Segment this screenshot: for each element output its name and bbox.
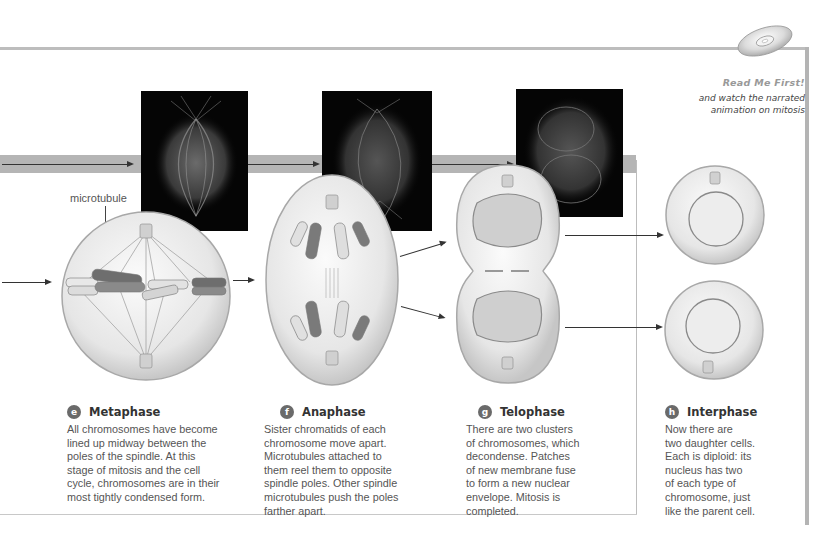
description-line: farther apart. (264, 505, 449, 519)
arrow-telophase-to-interphase-top (565, 235, 662, 236)
frame-right-line (636, 160, 637, 515)
subtitle-line: animation on mitosis (655, 104, 805, 116)
arrow-into-metaphase (2, 282, 50, 283)
description-line: chromosome move apart. (264, 437, 449, 451)
description-line: completed. (466, 505, 626, 519)
right-divider (805, 47, 809, 525)
top-divider (0, 47, 808, 50)
microtubule-label: microtubule (70, 192, 127, 204)
description-line: There are two clusters (466, 423, 626, 437)
read-me-first-link[interactable]: Read Me First! (723, 77, 805, 88)
description-line: Now there are (665, 423, 805, 437)
stage-description: Now there are two daughter cells. Each i… (665, 423, 805, 518)
description-line: All chromosomes have become (67, 423, 252, 437)
interphase-daughter-cell-bottom (663, 279, 765, 381)
description-line: cycle, chromosomes are in their (67, 477, 252, 491)
band-arrow-2 (240, 164, 318, 165)
description-line: most tightly condensed form. (67, 491, 252, 505)
interphase-daughter-cell-top (664, 164, 766, 266)
stage-letter-badge: e (67, 405, 81, 419)
description-line: of new membrane fuse (466, 464, 626, 478)
stage-anaphase: f Anaphase Sister chromatids of each chr… (264, 405, 449, 518)
stage-title: Telophase (500, 405, 565, 419)
description-line: poles of the spindle. At this (67, 450, 252, 464)
description-line: spindle poles. Other spindle (264, 477, 449, 491)
description-line: two daughter cells. (665, 437, 805, 451)
arrow-telophase-to-interphase-bottom (565, 327, 661, 328)
stage-title: Interphase (687, 405, 757, 419)
description-line: to form a new nuclear (466, 477, 626, 491)
description-line: chromosome, just (665, 491, 805, 505)
arrow-anaphase-to-telophase-bottom (401, 306, 444, 318)
description-line: Each is diploid: its (665, 450, 805, 464)
anaphase-cell-illustration (264, 173, 400, 387)
stage-interphase: h Interphase Now there are two daughter … (665, 405, 805, 518)
stage-description: Sister chromatids of each chromosome mov… (264, 423, 449, 518)
stage-letter-badge: f (280, 405, 294, 419)
description-line: of each type of (665, 477, 805, 491)
description-line: microtubules push the poles (264, 491, 449, 505)
stage-description: There are two clusters of chromosomes, w… (466, 423, 626, 518)
arrow-metaphase-to-anaphase (233, 280, 253, 281)
cd-disc-icon[interactable] (735, 22, 795, 60)
cd-promo-subtitle: and watch the narrated animation on mito… (655, 92, 805, 116)
description-line: decondense. Patches (466, 450, 626, 464)
stage-title: Metaphase (89, 405, 160, 419)
description-line: envelope. Mitosis is (466, 491, 626, 505)
band-arrow-1 (2, 164, 132, 165)
description-line: Sister chromatids of each (264, 423, 449, 437)
description-line: them reel them to opposite (264, 464, 449, 478)
description-line: Microtubules attached to (264, 450, 449, 464)
description-line: like the parent cell. (665, 505, 805, 519)
subtitle-line: and watch the narrated (655, 92, 805, 104)
stage-description: All chromosomes have become lined up mid… (67, 423, 252, 505)
arrow-anaphase-to-telophase-top (400, 242, 445, 257)
stage-title: Anaphase (302, 405, 366, 419)
metaphase-cell-illustration (60, 210, 232, 382)
description-line: lined up midway between the (67, 437, 252, 451)
description-line: nucleus has two (665, 464, 805, 478)
stage-letter-badge: h (665, 405, 679, 419)
description-line: of chromosomes, which (466, 437, 626, 451)
stage-telophase: g Telophase There are two clusters of ch… (466, 405, 626, 518)
description-line: stage of mitosis and the cell (67, 464, 252, 478)
stage-letter-badge: g (478, 405, 492, 419)
stage-metaphase: e Metaphase All chromosomes have become … (67, 405, 252, 505)
telophase-cell-illustration (453, 163, 563, 385)
